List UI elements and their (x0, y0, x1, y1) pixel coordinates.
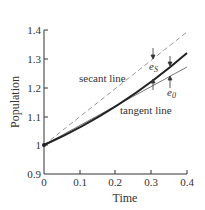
svg-text:0.3: 0.3 (144, 176, 158, 188)
svg-text:1: 1 (36, 139, 42, 151)
exact-curve (44, 53, 187, 145)
y-axis-label: Population (8, 76, 22, 128)
x-tick-labels: 0 0.1 0.2 0.3 0.4 (41, 176, 194, 188)
chart: 1.4 1.3 1.2 1.1 1 0.9 0 0.1 0.2 0.3 0.4 … (0, 0, 205, 210)
svg-text:1.2: 1.2 (27, 82, 41, 94)
svg-text:1.4: 1.4 (27, 24, 41, 36)
e-s-label: eS (149, 60, 158, 74)
y-tick-labels: 1.4 1.3 1.2 1.1 1 0.9 (27, 24, 41, 180)
start-point (42, 143, 46, 147)
svg-text:0: 0 (41, 176, 47, 188)
e-0-label: e0 (167, 86, 176, 100)
svg-text:0.2: 0.2 (108, 176, 122, 188)
svg-text:0.4: 0.4 (180, 176, 194, 188)
svg-text:1.3: 1.3 (27, 53, 41, 65)
y-ticks (44, 30, 48, 145)
x-ticks (80, 170, 187, 174)
x-axis-label: Time (113, 191, 138, 205)
svg-text:0.1: 0.1 (73, 176, 87, 188)
svg-text:0.9: 0.9 (27, 168, 41, 180)
svg-text:1.1: 1.1 (27, 111, 41, 123)
tangent-line-label: tangent line (120, 104, 172, 116)
secant-line-label: secant line (79, 72, 126, 84)
secant-line (44, 32, 187, 145)
